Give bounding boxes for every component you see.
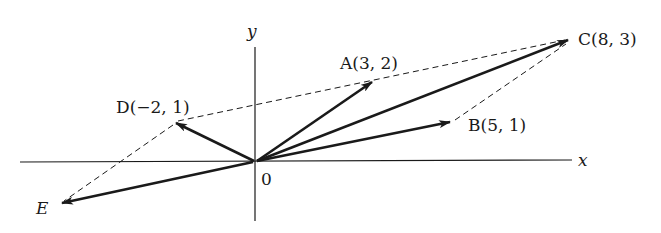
point-label-D: D(−2, 1)	[116, 97, 190, 117]
vector-0-D	[176, 123, 254, 161]
point-label-B: B(5, 1)	[468, 115, 526, 135]
vector-0-C	[257, 40, 568, 161]
vector-diagram: y x 0 A(3, 2) B(5, 1) C(8, 3) D(−2, 1) E	[0, 0, 661, 233]
y-axis-label: y	[246, 21, 257, 41]
x-axis	[20, 160, 572, 162]
point-label-A: A(3, 2)	[339, 53, 398, 73]
point-label-E: E	[35, 198, 49, 218]
dashed-line-B-C	[455, 44, 566, 120]
origin-label: 0	[261, 169, 272, 189]
point-label-C: C(8, 3)	[578, 29, 637, 49]
x-axis-label: x	[578, 150, 588, 170]
